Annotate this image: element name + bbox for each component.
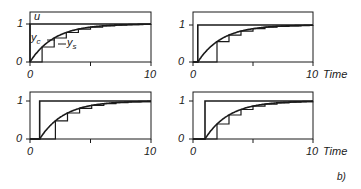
p1-ytick-0: 0 [178, 56, 184, 67]
p2-ytick-0: 0 [16, 133, 22, 144]
p1-ytick-1: 1 [179, 19, 185, 30]
annotation-yc: yc [31, 32, 41, 43]
p1-xaxis-title: Time [323, 69, 347, 80]
panel-frame [193, 12, 313, 62]
p1-xtick-10: 10 [306, 69, 318, 80]
annotation-ys-sub: s [73, 42, 77, 51]
sampled-response-ys [193, 25, 313, 62]
panel-frame [30, 12, 151, 62]
p0-xtick-0: 0 [27, 69, 33, 80]
panel-frame [193, 92, 313, 139]
panel-frame [30, 92, 151, 139]
p3-xtick-10: 10 [306, 146, 318, 157]
p0-xtick-10: 10 [144, 69, 156, 80]
p2-ytick-1: 1 [17, 95, 23, 106]
p2-xtick-0: 0 [27, 146, 33, 157]
p2-xtick-10: 10 [144, 146, 156, 157]
sampled-response-ys [193, 101, 313, 139]
annotation-yc-main: y [31, 31, 37, 43]
p0-ytick-1: 1 [17, 18, 23, 29]
p0-ytick-0: 0 [16, 56, 22, 67]
p3-xtick-0: 0 [190, 146, 196, 157]
annotation-yc-sub: c [37, 37, 41, 46]
sampled-response-ys [30, 24, 151, 62]
continuous-response-yc [30, 24, 151, 62]
continuous-response-yc [30, 101, 151, 139]
p3-ytick-1: 1 [179, 95, 185, 106]
p3-xaxis-title: Time [323, 146, 347, 157]
annotation-u: u [34, 11, 40, 22]
annotation-ys-main: y [67, 36, 73, 48]
input-step-u [30, 101, 151, 139]
annotation-ys: ys [67, 37, 77, 48]
p1-xtick-0: 0 [190, 69, 196, 80]
sampled-response-ys [30, 102, 151, 139]
p3-ytick-0: 0 [178, 133, 184, 144]
figure-label: b) [337, 172, 346, 182]
